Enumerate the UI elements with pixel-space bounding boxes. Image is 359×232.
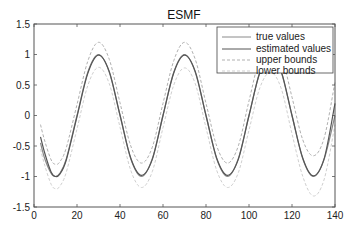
legend-label-true-values: true values (256, 31, 305, 42)
legend: true values estimated values upper bound… (217, 27, 333, 76)
y-tick-label: 0.5 (16, 80, 30, 91)
y-tick-label: -1.5 (13, 202, 31, 213)
legend-label-upper-bounds: upper bounds (256, 54, 317, 65)
x-tick-label: 40 (114, 210, 126, 221)
legend-label-estimated-values: estimated values (256, 43, 331, 54)
legend-label-lower-bounds: lower bounds (256, 65, 315, 76)
y-tick-label: -0.5 (13, 141, 31, 152)
y-tick-label: 1.5 (16, 19, 30, 30)
x-tick-label: 120 (284, 210, 301, 221)
y-tick-label: 0 (24, 110, 30, 121)
x-tick-label: 20 (71, 210, 83, 221)
y-tick-label: 1 (24, 49, 30, 60)
esmf-chart: ESMF 020406080100120140-1.5-1-0.500.511.… (0, 0, 359, 232)
chart-title: ESMF (167, 8, 200, 22)
x-tick-label: 140 (327, 210, 344, 221)
y-tick-label: -1 (21, 171, 30, 182)
x-tick-label: 80 (200, 210, 212, 221)
x-tick-label: 100 (241, 210, 258, 221)
x-tick-label: 60 (157, 210, 169, 221)
x-tick-label: 0 (31, 210, 37, 221)
